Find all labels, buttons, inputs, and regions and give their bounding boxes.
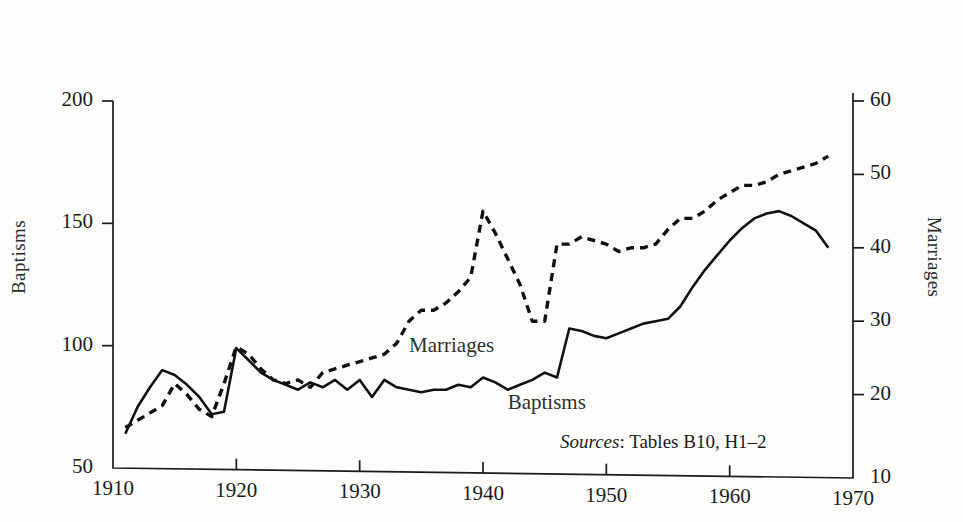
axes-group xyxy=(102,93,864,478)
chart-figure: Baptisms Marriages 501001502001020304050… xyxy=(0,0,963,522)
y-tick-label-right: 60 xyxy=(870,87,930,112)
data-series-group xyxy=(125,156,828,434)
x-tick-label: 1970 xyxy=(813,486,893,511)
series-label-marriages: Marriages xyxy=(409,333,494,358)
y-tick-label-left: 100 xyxy=(33,332,93,357)
series-label-baptisms: Baptisms xyxy=(508,390,586,415)
y-tick-label-right: 30 xyxy=(870,307,930,332)
left-axis-title: Baptisms xyxy=(8,202,30,312)
x-tick-label: 1940 xyxy=(443,481,523,506)
series-line-marriages xyxy=(125,156,828,428)
y-tick-label-left: 200 xyxy=(33,87,93,112)
x-tick-label: 1960 xyxy=(690,484,770,509)
source-note-text: Tables B10, H1–2 xyxy=(625,431,767,452)
x-tick-label: 1920 xyxy=(196,478,276,503)
y-tick-label-left: 150 xyxy=(33,209,93,234)
y-tick-label-right: 20 xyxy=(870,381,930,406)
x-tick-label: 1950 xyxy=(566,483,646,508)
x-tick-label: 1930 xyxy=(320,479,400,504)
y-tick-label-right: 40 xyxy=(870,234,930,259)
axis-frame xyxy=(113,93,853,478)
chart-plot-area xyxy=(0,0,963,522)
source-note: Sources: Tables B10, H1–2 xyxy=(560,431,767,453)
y-tick-label-right: 50 xyxy=(870,160,930,185)
x-tick-label: 1910 xyxy=(73,476,153,501)
source-note-label: Sources xyxy=(560,431,619,452)
